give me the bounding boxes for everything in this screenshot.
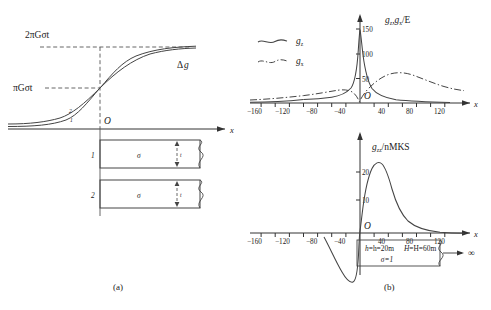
panel-a-mid-level-label: πGσt xyxy=(13,83,33,93)
panel-a-curve-2 xyxy=(8,46,196,126)
panel-b-top-xtick-label--160: −160 xyxy=(247,108,262,116)
legend-label-gx: gx xyxy=(296,56,304,67)
panel-b-top-origin-label: O xyxy=(364,91,371,101)
panel-a-slab-2-break-icon xyxy=(199,180,203,208)
panel-b-bottom-origin-label: O xyxy=(364,221,371,231)
panel-b-bottom-x-axis-label: x xyxy=(473,229,478,239)
panel-b-bottom-xtick-label--120: −120 xyxy=(275,238,290,246)
panel-b-bottom-y-arrow-icon xyxy=(357,132,363,140)
panel-b-caption: (b) xyxy=(384,282,395,292)
panel-b-top-ytick-label-150: 150 xyxy=(362,26,373,34)
panel-a-delta-g-label: Δg xyxy=(177,60,189,70)
panel-a-curve-label-2: 2 xyxy=(69,108,72,114)
panel-b-top-xticks xyxy=(261,103,445,107)
figure-root: x 2πGσt πGσt 2 1 Δg O 1 σ t xyxy=(0,0,491,310)
panel-a-slab-2-density: σ xyxy=(137,191,141,200)
panel-a-slab-1-index: 1 xyxy=(91,151,95,160)
panel-b-bottom-y-axis-label: gzz/nMKS xyxy=(372,142,410,153)
panel-b-top-curve-gz xyxy=(304,30,451,103)
legend-label-gz: gz xyxy=(296,36,304,47)
panel-a-x-arrow-icon xyxy=(217,126,225,132)
panel-b-bottom-xtick-label--80: −80 xyxy=(306,238,318,246)
panel-b-bottom-ytick-label-20: 20 xyxy=(362,169,370,177)
panel-b-bottom-xtick-label--160: −160 xyxy=(247,238,262,246)
panel-b-annotation-box: h=h=20m H=H=60m σ=1 ∞ xyxy=(357,240,475,266)
panel-a-origin-label: O xyxy=(104,116,111,126)
panel-b-top-xtick-label-40: 40 xyxy=(378,108,386,116)
panel-b-legend: gz gx xyxy=(258,36,304,67)
panel-a-slab-1-break-icon xyxy=(199,140,203,168)
panel-b-top: x gz,gx/E 150 100 50 O xyxy=(247,14,478,116)
annotation-H-value: H=H=60m xyxy=(403,244,436,253)
figure-svg: x 2πGσt πGσt 2 1 Δg O 1 σ t xyxy=(0,0,491,310)
panel-b-top-y-axis-label: gz,gx/E xyxy=(385,15,411,26)
panel-a-caption: (a) xyxy=(113,282,123,292)
panel-b-top-curve-gx xyxy=(250,73,464,102)
panel-a-curve-label-1: 1 xyxy=(70,117,73,123)
panel-a-slab-1-thickness: t xyxy=(180,152,182,158)
panel-a: x 2πGσt πGσt 2 1 Δg O 1 σ t xyxy=(8,30,234,292)
panel-a-slab-2-thickness: t xyxy=(180,192,182,198)
panel-b-bottom-xticks xyxy=(261,233,445,237)
panel-b-top-x-arrow-icon xyxy=(462,100,470,106)
panel-b-top-y-arrow-icon xyxy=(357,14,363,22)
panel-a-x-axis-label: x xyxy=(229,125,234,135)
legend-swatch-gx-icon xyxy=(258,60,287,63)
legend-swatch-gz-icon xyxy=(258,40,287,43)
panel-a-upper-level-label: 2πGσt xyxy=(25,30,50,40)
panel-a-slab-1: 1 σ t xyxy=(91,140,203,168)
panel-b-top-xtick-label-120: 120 xyxy=(434,108,445,116)
panel-a-slab-2: 2 σ t xyxy=(91,180,203,208)
annotation-infinity-arrow-icon xyxy=(457,251,464,256)
panel-b-top-curve-gz-left-tail xyxy=(250,99,304,102)
panel-a-slab-1-density: σ xyxy=(137,151,141,160)
annotation-h-value: h=h=20m xyxy=(365,244,394,253)
panel-b-top-xtick-label--40: −40 xyxy=(334,108,346,116)
panel-b-top-xtick-label-80: 80 xyxy=(406,108,414,116)
panel-a-slab-2-index: 2 xyxy=(91,191,95,200)
panel-b-bottom-xtick-label--40: −40 xyxy=(334,238,346,246)
panel-b-top-x-axis-label: x xyxy=(473,99,478,109)
annotation-sigma-value: σ=1 xyxy=(381,255,393,264)
panel-b-top-xtick-label--80: −80 xyxy=(306,108,318,116)
panel-b-bottom-curve-gzz xyxy=(324,163,464,283)
annotation-infinity-label: ∞ xyxy=(468,248,475,258)
panel-b-top-xtick-label--120: −120 xyxy=(275,108,290,116)
panel-b-bottom: x gzz/nMKS 20 10 O xyxy=(247,132,478,292)
